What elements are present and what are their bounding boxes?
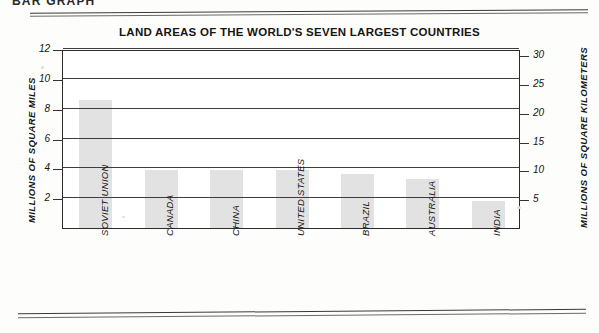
y-tick-right-25 (519, 85, 529, 86)
y-tick-right-20 (519, 114, 529, 115)
y-tick-label-left-10: 10 (28, 73, 50, 84)
y-tick-left-2 (53, 199, 63, 200)
y-tick-right-5 (519, 200, 529, 201)
y-tick-label-right-15: 15 (533, 136, 544, 147)
page-heading: BAR GRAPH (12, 0, 95, 8)
y-tick-label-left-6: 6 (28, 133, 50, 144)
gridline-8 (63, 108, 519, 109)
category-label-india: INDIA (491, 209, 502, 236)
y-tick-label-left-2: 2 (28, 192, 50, 203)
y-tick-left-6 (53, 140, 63, 141)
y-tick-label-right-20: 20 (533, 107, 544, 118)
y-tick-right-15 (519, 143, 529, 144)
category-label-united-states: UNITED STATES (295, 159, 306, 236)
category-label-soviet-union: SOVIET UNION (99, 164, 110, 236)
scan-speckle (41, 66, 44, 69)
y-tick-left-12 (53, 50, 63, 51)
category-label-australia: AUSTRALIA (426, 181, 437, 237)
y-tick-label-left-8: 8 (28, 103, 50, 114)
gridline-6 (63, 138, 519, 139)
y-tick-left-8 (53, 110, 63, 111)
y-axis-title-right: MILLIONS OF SQUARE KILOMETERS (578, 47, 589, 228)
page-rule-top (30, 9, 588, 17)
category-label-china: CHINA (230, 205, 241, 236)
scanned-page: BAR GRAPH LAND AREAS OF THE WORLD'S SEVE… (0, 0, 599, 333)
y-tick-right-10 (519, 171, 529, 172)
y-tick-label-right-30: 30 (533, 49, 544, 60)
y-tick-right-30 (519, 56, 529, 57)
gridline-4 (63, 167, 519, 168)
y-tick-label-right-5: 5 (533, 193, 539, 204)
category-label-brazil: BRAZIL (360, 201, 371, 236)
gridline-10 (63, 78, 519, 79)
category-label-canada: CANADA (164, 195, 175, 236)
y-tick-label-right-10: 10 (533, 164, 544, 175)
gridline-2 (63, 197, 519, 198)
y-tick-label-right-25: 25 (533, 78, 544, 89)
chart-title: LAND AREAS OF THE WORLD'S SEVEN LARGEST … (0, 26, 599, 38)
gridline-12 (63, 48, 519, 49)
y-tick-label-left-12: 12 (28, 43, 50, 54)
y-tick-label-left-4: 4 (28, 162, 50, 173)
page-rule-bottom (18, 309, 586, 318)
plot-area (62, 50, 520, 229)
y-tick-left-10 (53, 80, 63, 81)
y-tick-left-4 (53, 169, 63, 170)
